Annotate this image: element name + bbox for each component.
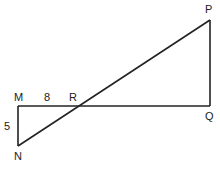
label-p: P <box>205 3 212 15</box>
label-r: R <box>69 91 77 103</box>
measure-mr: 8 <box>44 91 50 103</box>
label-m: M <box>14 91 23 103</box>
measure-mn: 5 <box>4 120 10 132</box>
segment-np <box>18 20 210 146</box>
label-n: N <box>14 150 22 162</box>
geometry-diagram: M N R Q P 8 5 <box>0 0 220 172</box>
label-q: Q <box>205 110 214 122</box>
